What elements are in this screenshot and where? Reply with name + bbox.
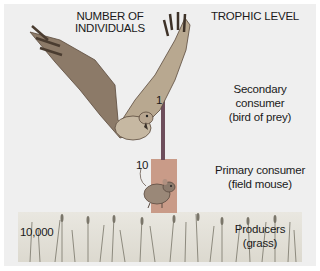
label-primary-consumer: Primary consumer (field mouse) [200, 163, 320, 191]
count-primary: 10 [136, 159, 148, 171]
label-producers: Producers (grass) [215, 222, 305, 250]
label-secondary-consumer: Secondary consumer (bird of prey) [215, 82, 305, 124]
trophic-level-header: TROPHIC LEVEL [205, 10, 305, 22]
number-of-individuals-header: NUMBER OF INDIVIDUALS [60, 10, 160, 34]
mouse-icon [140, 168, 175, 208]
count-secondary: 1 [156, 94, 162, 106]
count-producers: 10,000 [20, 226, 53, 238]
